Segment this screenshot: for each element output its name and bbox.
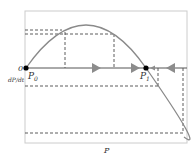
arrow-left-2 (150, 66, 155, 71)
p1-label: P1 (139, 71, 150, 82)
p0-subscript: 0 (34, 75, 38, 82)
diagram-canvas: 0 dP/dt P0 P1 P (0, 0, 195, 156)
p1-subscript: 1 (146, 75, 150, 82)
origin-label: 0 (18, 64, 23, 73)
curve (26, 25, 190, 140)
arrow-left-1 (166, 63, 175, 73)
diagram: 0 dP/dt P0 P1 P (0, 0, 195, 156)
arrow-right-1 (92, 63, 101, 73)
y-axis-label: dP/dt (8, 76, 25, 83)
p0-label: P0 (27, 71, 38, 82)
frame (25, 11, 187, 143)
x-axis-label: P (103, 146, 110, 155)
fixed-point-p0 (23, 65, 28, 70)
arrow-right-2 (131, 63, 140, 73)
cobweb-lines (25, 30, 183, 133)
fixed-point-p1 (143, 65, 148, 70)
